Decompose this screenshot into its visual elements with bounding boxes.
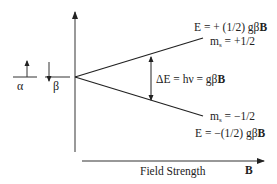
upper-ms-label: ms = +1/2 [210,35,255,49]
x-axis-symbol: B [245,164,253,176]
beta-spin-state: β [45,62,70,93]
beta-label: β [53,79,59,93]
energy-gap-label: ΔE = hν = gβB [156,73,225,86]
zeeman-diagram: α β ΔE = hν = gβB E = + (1/2) gβB ms = +… [0,0,277,184]
lower-energy-label: E = −(1/2) gβB [195,127,266,140]
x-axis-label: Field Strength [140,165,206,178]
upper-energy-label: E = + (1/2) gβB [194,21,267,34]
upper-energy-level-line [75,38,203,77]
alpha-label: α [17,79,24,93]
alpha-spin-state: α [13,61,37,93]
lower-ms-label: ms = −1/2 [210,110,255,124]
